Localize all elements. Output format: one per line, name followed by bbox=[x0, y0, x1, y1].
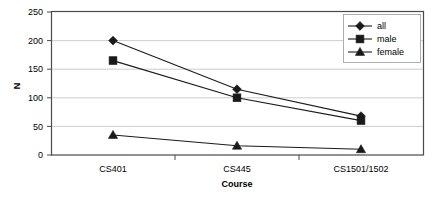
legend-label-female: female bbox=[377, 47, 404, 57]
chart-container: 0 50 100 150 200 250 N CS401 CS445 CS150… bbox=[0, 0, 434, 202]
category-label-cs1501: CS1501/1502 bbox=[333, 164, 388, 174]
legend-label-all: all bbox=[377, 21, 386, 31]
data-point-male-cs1501 bbox=[357, 117, 365, 125]
x-axis-labels: CS401 CS445 CS1501/1502 bbox=[99, 164, 388, 174]
ytick-label-100: 100 bbox=[28, 93, 43, 103]
ytick-label-0: 0 bbox=[38, 150, 43, 160]
ytick-label-150: 150 bbox=[28, 64, 43, 74]
y-axis-labels: 0 50 100 150 200 250 bbox=[28, 7, 43, 160]
category-label-cs401: CS401 bbox=[99, 164, 127, 174]
data-point-male-cs445 bbox=[233, 94, 241, 102]
x-axis-ticks bbox=[175, 155, 299, 160]
line-chart: 0 50 100 150 200 250 N CS401 CS445 CS150… bbox=[0, 0, 434, 202]
ytick-label-200: 200 bbox=[28, 36, 43, 46]
ytick-label-50: 50 bbox=[33, 122, 43, 132]
legend-marker-square-icon bbox=[356, 35, 364, 43]
x-axis-title: Course bbox=[221, 179, 252, 189]
legend-label-male: male bbox=[377, 34, 397, 44]
chart-legend: all male female bbox=[344, 15, 421, 63]
ytick-label-250: 250 bbox=[28, 7, 43, 17]
category-label-cs445: CS445 bbox=[223, 164, 251, 174]
y-axis-title: N bbox=[12, 83, 22, 90]
data-point-male-cs401 bbox=[109, 57, 117, 65]
